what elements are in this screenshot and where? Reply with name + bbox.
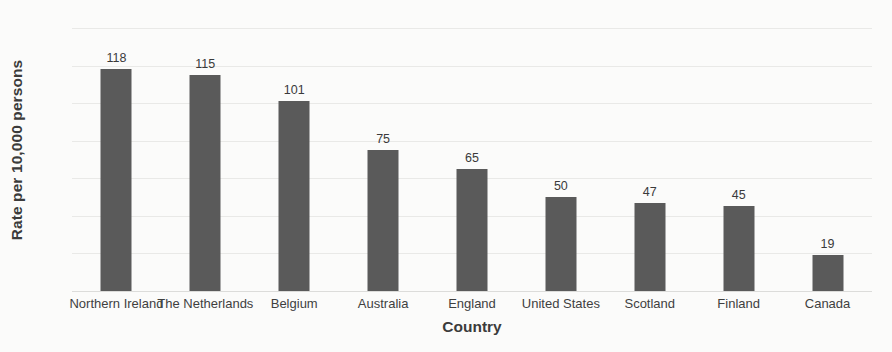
bar-group: 65England: [428, 28, 517, 291]
y-axis-title: Rate per 10,000 persons: [0, 0, 34, 300]
gridline: [72, 291, 872, 292]
bar-value-label: 19: [821, 237, 835, 251]
bar[interactable]: [545, 197, 576, 291]
bar-value-label: 65: [465, 151, 479, 165]
bar-value-label: 115: [195, 57, 215, 71]
bar-value-label: 101: [284, 83, 305, 97]
x-axis-title: Country: [72, 318, 872, 336]
bar[interactable]: [812, 255, 843, 291]
bar-group: 19Canada: [783, 28, 872, 291]
x-axis-category-label: Canada: [805, 296, 851, 311]
bar-chart-figure: Rate per 10,000 persons 0204060801001201…: [0, 0, 892, 352]
x-axis-category-label: England: [448, 296, 496, 311]
bar[interactable]: [368, 150, 399, 291]
bar[interactable]: [634, 203, 665, 291]
x-axis-category-label: Australia: [358, 296, 409, 311]
bar[interactable]: [279, 101, 310, 291]
bar-group: 47Scotland: [605, 28, 694, 291]
x-axis-category-label: Northern Ireland: [69, 296, 163, 311]
bar-value-label: 118: [106, 51, 126, 65]
y-axis-title-label: Rate per 10,000 persons: [8, 60, 26, 241]
x-axis-category-label: Belgium: [271, 296, 318, 311]
bar-group: 115The Netherlands: [161, 28, 250, 291]
bar-group: 101Belgium: [250, 28, 339, 291]
bar-group: 45Finland: [694, 28, 783, 291]
x-axis-category-label: The Netherlands: [157, 296, 253, 311]
x-axis-category-label: United States: [522, 296, 600, 311]
bar[interactable]: [723, 206, 754, 291]
plot-area: 020406080100120140118Northern Ireland115…: [72, 28, 872, 291]
bar[interactable]: [190, 75, 221, 291]
bar-group: 75Australia: [339, 28, 428, 291]
bar-group: 50United States: [516, 28, 605, 291]
bar[interactable]: [456, 169, 487, 291]
bar-value-label: 75: [376, 132, 390, 146]
x-axis-category-label: Scotland: [624, 296, 675, 311]
x-axis-category-label: Finland: [717, 296, 760, 311]
bar-value-label: 45: [732, 188, 746, 202]
bar-group: 118Northern Ireland: [72, 28, 161, 291]
bar[interactable]: [101, 69, 132, 291]
bar-value-label: 50: [554, 179, 568, 193]
bar-value-label: 47: [643, 185, 657, 199]
